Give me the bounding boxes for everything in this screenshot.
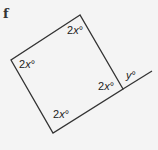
angle-exterior: y° (126, 69, 136, 81)
angle-bottom: 2x° (53, 108, 69, 120)
angle-top: 2x° (67, 24, 83, 36)
angle-right: 2x° (98, 80, 114, 92)
angle-left: 2x° (19, 58, 35, 70)
